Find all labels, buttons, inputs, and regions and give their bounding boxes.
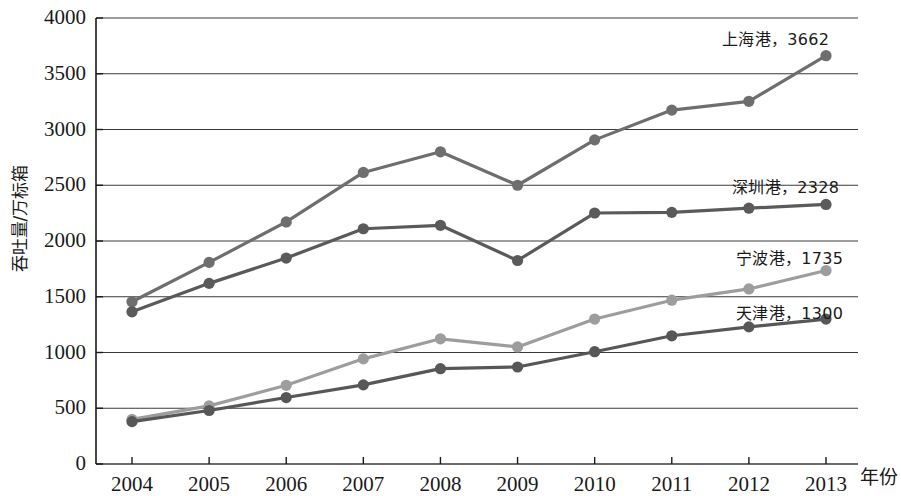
series-end-label-tianjin: 天津港，1300 [736, 300, 843, 324]
series-end-label-shenzhen: 深圳港，2328 [732, 174, 839, 198]
series-line-0 [132, 56, 826, 302]
data-point [820, 199, 831, 210]
data-point [743, 96, 754, 107]
x-axis-tick-label: 2005 [169, 474, 249, 495]
data-point [589, 313, 600, 324]
series-end-label-ningbo: 宁波港，1735 [736, 245, 843, 269]
data-point [281, 392, 292, 403]
data-point [358, 379, 369, 390]
data-point [126, 296, 137, 307]
x-axis-tick-label: 2009 [478, 474, 558, 495]
data-point [358, 167, 369, 178]
y-axis-tick-label: 3000 [8, 119, 86, 140]
data-point [126, 416, 137, 427]
x-axis-tick-label: 2012 [709, 474, 789, 495]
y-axis-tick-label: 2000 [8, 230, 86, 251]
data-point [666, 330, 677, 341]
data-point [512, 361, 523, 372]
x-axis-tick-label: 2013 [786, 474, 866, 495]
data-point [126, 306, 137, 317]
y-axis-tick-label: 1000 [8, 342, 86, 363]
data-point [743, 283, 754, 294]
series-line-3 [132, 319, 826, 422]
data-point [512, 341, 523, 352]
y-axis-tick-label: 1500 [8, 286, 86, 307]
series-end-label-shanghai: 上海港，3662 [722, 26, 829, 50]
y-axis-tick-label: 2500 [8, 174, 86, 195]
y-axis-tick-label: 3500 [8, 63, 86, 84]
data-point [281, 216, 292, 227]
data-point [512, 255, 523, 266]
data-point [204, 257, 215, 268]
data-point [743, 203, 754, 214]
data-point [666, 104, 677, 115]
data-point [358, 223, 369, 234]
data-point [435, 363, 446, 374]
x-axis-tick-label: 2007 [323, 474, 403, 495]
data-point [589, 134, 600, 145]
series-line-2 [132, 271, 826, 420]
data-point [666, 207, 677, 218]
data-point [204, 405, 215, 416]
y-axis-tick-label: 0 [8, 453, 86, 474]
y-axis-tick-label: 4000 [8, 7, 86, 28]
data-point [589, 346, 600, 357]
data-point [666, 295, 677, 306]
data-point [435, 333, 446, 344]
data-point [281, 252, 292, 263]
data-point [204, 278, 215, 289]
series-line-1 [132, 204, 826, 311]
data-point [589, 207, 600, 218]
x-axis-tick-label: 2011 [632, 474, 712, 495]
data-point [435, 220, 446, 231]
data-point [281, 380, 292, 391]
data-point [435, 146, 446, 157]
x-axis-tick-label: 2010 [555, 474, 635, 495]
y-axis-tick-label: 500 [8, 397, 86, 418]
x-axis-tick-label: 2006 [246, 474, 326, 495]
data-point [512, 180, 523, 191]
data-point [358, 353, 369, 364]
x-axis-tick-label: 2004 [92, 474, 172, 495]
line-chart: 吞吐量/万标箱 年份 上海港，3662 深圳港，2328 宁波港，1735 天津… [0, 0, 901, 496]
data-point [820, 50, 831, 61]
x-axis-tick-label: 2008 [400, 474, 480, 495]
